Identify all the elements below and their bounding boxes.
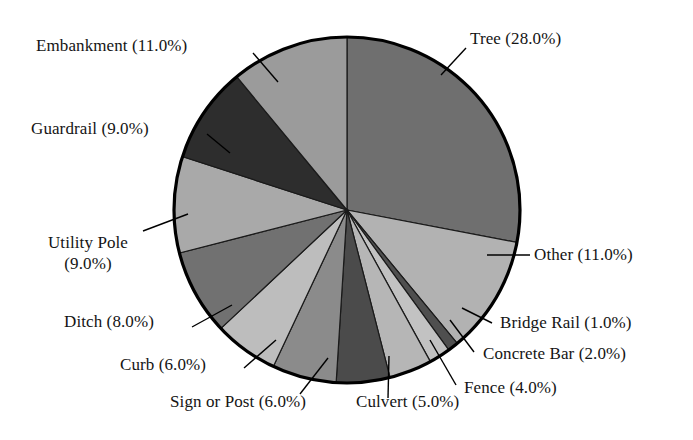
leader-line-tree	[441, 48, 466, 75]
pie-chart: Embankment (11.0%) Guardrail (9.0%) Util…	[0, 0, 693, 440]
label-sign-or-post: Sign or Post (6.0%)	[170, 392, 306, 412]
label-utility-pole-line1: Utility Pole	[48, 233, 128, 252]
label-curb: Curb (6.0%)	[120, 355, 206, 375]
label-fence: Fence (4.0%)	[464, 378, 557, 398]
label-culvert: Culvert (5.0%)	[356, 392, 459, 412]
label-guardrail: Guardrail (9.0%)	[31, 119, 149, 139]
label-bridge-rail: Bridge Rail (1.0%)	[500, 313, 632, 333]
pie-chart-canvas	[0, 0, 693, 440]
label-other: Other (11.0%)	[534, 245, 633, 265]
label-ditch: Ditch (8.0%)	[64, 312, 154, 332]
label-utility-pole-line2: (9.0%)	[64, 254, 111, 273]
label-embankment: Embankment (11.0%)	[36, 36, 187, 56]
label-concrete-bar: Concrete Bar (2.0%)	[483, 344, 626, 364]
pie-slice-tree	[347, 37, 520, 242]
label-tree: Tree (28.0%)	[470, 29, 561, 49]
pie-slice-group	[174, 37, 520, 383]
